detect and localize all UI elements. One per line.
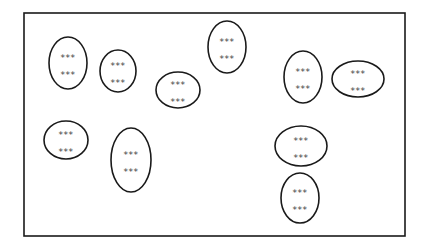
oval-text-line-1: *** [351,69,366,79]
diagram-canvas: ****************************************… [0,0,424,247]
oval-text-line-2: *** [111,78,126,88]
oval-text-line-1: *** [171,80,186,90]
oval-text-line-2: *** [59,147,74,157]
oval-shape [208,21,246,73]
oval-node: ****** [44,121,88,159]
oval-text-line-2: *** [296,84,311,94]
oval-node: ****** [156,72,200,108]
oval-shape [281,173,319,223]
oval-text-line-1: *** [296,67,311,77]
oval-shape [49,37,87,89]
oval-text-line-1: *** [294,136,309,146]
oval-node: ****** [111,128,151,192]
oval-shape [111,128,151,192]
oval-text-line-2: *** [351,86,366,96]
oval-node: ****** [281,173,319,223]
oval-group: ****************************************… [44,21,384,223]
oval-node: ****** [275,126,327,166]
oval-shape [284,51,322,103]
oval-node: ****** [284,51,322,103]
oval-text-line-1: *** [61,53,76,63]
oval-text-line-2: *** [61,70,76,80]
oval-text-line-1: *** [111,61,126,71]
oval-text-line-2: *** [293,205,308,215]
oval-text-line-1: *** [59,130,74,140]
oval-text-line-1: *** [124,150,139,160]
oval-node: ****** [100,50,136,92]
oval-text-line-2: *** [124,167,139,177]
oval-text-line-2: *** [294,153,309,163]
oval-text-line-2: *** [171,97,186,107]
oval-text-line-2: *** [220,54,235,64]
oval-node: ****** [208,21,246,73]
oval-node: ****** [49,37,87,89]
oval-node: ****** [332,61,384,97]
oval-text-line-1: *** [293,188,308,198]
oval-text-line-1: *** [220,37,235,47]
